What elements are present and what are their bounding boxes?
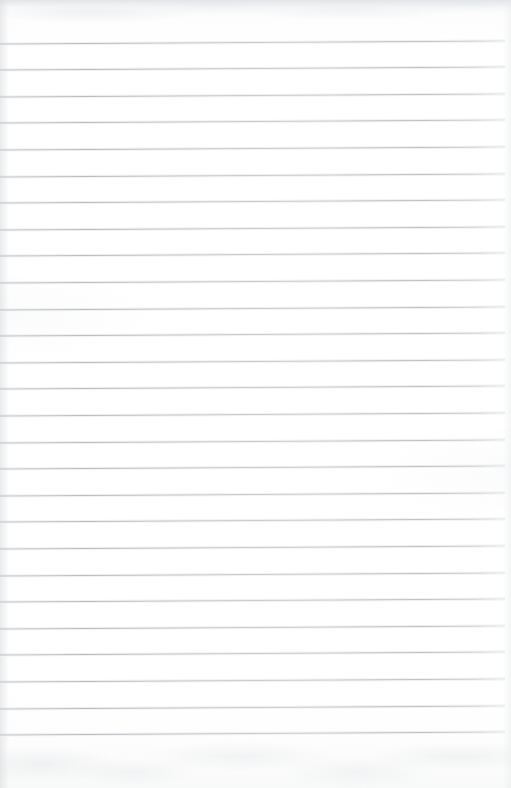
scanned-page — [0, 0, 511, 788]
paper-sheet — [0, 0, 511, 788]
